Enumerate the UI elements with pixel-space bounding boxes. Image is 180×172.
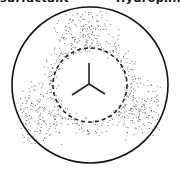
micelle-diagram	[0, 0, 180, 172]
three-arm-center-icon	[72, 63, 105, 95]
stipple-cloud	[20, 11, 160, 145]
